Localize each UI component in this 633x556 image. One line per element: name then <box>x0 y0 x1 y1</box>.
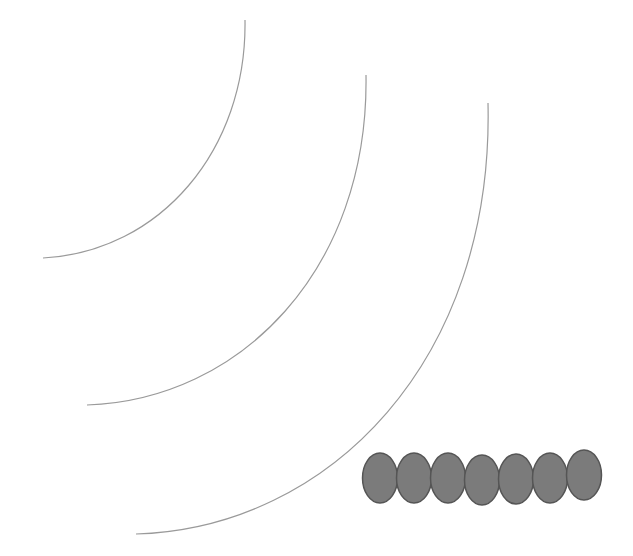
ellipse-6 <box>533 453 568 503</box>
ellipse-7 <box>567 450 602 500</box>
ellipse-5 <box>499 454 534 504</box>
arc-middle <box>87 75 366 405</box>
ellipse-row-group <box>363 450 602 505</box>
ellipse-4 <box>465 455 500 505</box>
signal-wave-diagram <box>0 0 633 556</box>
arc-inner <box>43 20 245 258</box>
ellipse-1 <box>363 453 398 503</box>
ellipse-3 <box>431 453 466 503</box>
ellipse-2 <box>397 453 432 503</box>
